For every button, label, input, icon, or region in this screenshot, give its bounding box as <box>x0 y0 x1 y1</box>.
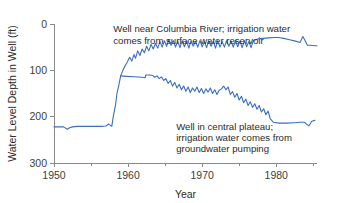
x-tick-label: 1950 <box>42 169 66 181</box>
x-tick-label: 1980 <box>265 169 289 181</box>
y-tick-label: 100 <box>29 64 47 76</box>
y-axis-title: Water Level Depth in Well (ft) <box>6 25 18 162</box>
chart-figure: 01002003001950196019701980 Well near Col… <box>0 0 359 203</box>
annotation-line: Well in central plateau; <box>176 121 273 132</box>
annotation-line: comes from surface water reservoir <box>113 35 264 46</box>
annotation-line: irrigation water comes from <box>176 132 292 143</box>
series-lines <box>54 37 317 130</box>
y-tick-label: 200 <box>29 110 47 122</box>
series-line-1 <box>121 75 315 126</box>
y-tick-label: 300 <box>29 157 47 169</box>
annotation-line: groundwater pumping <box>176 143 269 154</box>
series-line-0 <box>54 37 317 130</box>
x-axis-title: Year <box>175 188 197 200</box>
water-level-line-chart: 01002003001950196019701980 Well near Col… <box>0 0 359 203</box>
x-tick-label: 1960 <box>116 169 140 181</box>
x-tick-label: 1970 <box>190 169 214 181</box>
y-tick-label: 0 <box>41 18 47 30</box>
series-annotations: Well near Columbia River; irrigation wat… <box>113 23 292 154</box>
annotation-line: Well near Columbia River; irrigation wat… <box>113 23 291 34</box>
